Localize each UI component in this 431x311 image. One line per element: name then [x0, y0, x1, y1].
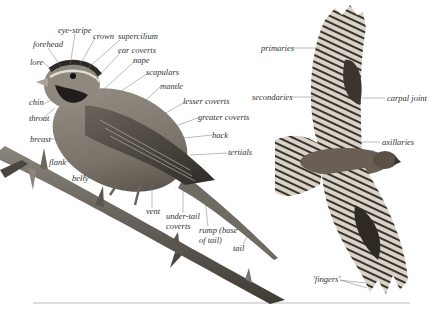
- label-primaries: primaries: [261, 44, 294, 53]
- label-lore: lore: [30, 58, 43, 67]
- label-ear-coverts: ear coverts: [118, 46, 156, 55]
- label-under-tail-coverts-line2: coverts: [166, 222, 191, 231]
- label-fingers: 'fingers': [313, 275, 340, 284]
- label-eye-stripe: eye-stripe: [58, 26, 92, 35]
- label-tail: tail: [233, 244, 244, 253]
- label-secondaries: secondaries: [252, 93, 293, 102]
- label-vent: vent: [146, 207, 160, 216]
- label-supercilium: supercilium: [118, 32, 158, 41]
- label-rump-line1: rump (base: [199, 226, 237, 235]
- label-axillaries: axillaries: [382, 138, 414, 147]
- label-carpal-joint: carpal joint: [387, 94, 427, 103]
- label-lesser-coverts: lesser coverts: [183, 97, 230, 106]
- bird-anatomy-diagram: eye-stripe crown supercilium forehead ea…: [0, 0, 431, 311]
- label-flank: flank: [49, 158, 66, 167]
- label-nape: nape: [133, 56, 150, 65]
- label-rump-line2: of tail): [199, 236, 222, 245]
- label-greater-coverts: greater coverts: [198, 113, 249, 122]
- label-chin: chin: [29, 98, 44, 107]
- label-mantle: mantle: [160, 82, 183, 91]
- label-scapulars: scapulars: [146, 68, 179, 77]
- illustration: [0, 0, 431, 311]
- raptor-in-flight: [275, 5, 408, 294]
- label-throat: throat: [29, 114, 49, 123]
- label-forehead: forehead: [33, 40, 63, 49]
- label-crown: crown: [93, 32, 114, 41]
- label-back: back: [212, 131, 228, 140]
- label-breast: breast: [30, 135, 51, 144]
- label-tertials: tertials: [228, 148, 252, 157]
- label-under-tail-coverts-line1: under-tail: [166, 212, 200, 221]
- label-belly: belly: [72, 174, 89, 183]
